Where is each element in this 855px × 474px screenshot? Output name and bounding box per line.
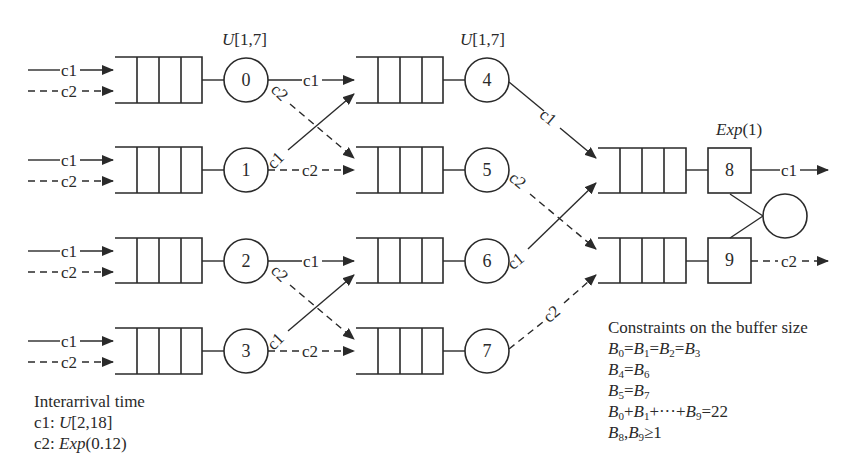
label-c1: c1 [61,61,77,80]
svg-text:9: 9 [725,250,734,270]
label-c1: c1 [61,242,77,261]
stage1-inputs: c1 c2 c1 c2 c1 c2 c1 c2 [28,61,113,372]
svg-text:c1: c1 [303,71,319,90]
server-0: 0 [224,58,268,102]
server-1: 1 [224,148,268,192]
constraints-title: Constraints on the buffer size [608,317,808,338]
svg-text:c1: c1 [781,161,797,180]
constraint-line: B0=B1=B2=B3B0=B1=B2=B3 [608,338,808,359]
server-8: 8 [708,148,751,193]
label-c2: c2 [61,82,77,101]
label-c1: c1 [61,332,77,351]
server-4: 4 [465,58,509,102]
label-c2: c2 [61,172,77,191]
queue-buffer-5 [356,147,443,193]
server-6: 6 [465,239,509,283]
stage2-queues [356,57,443,374]
routing-stage1-to-stage2: c1 c2 c1 c2 c1 c2 c1 c2 [263,71,354,361]
queue-buffer-2 [115,238,202,283]
svg-text:0: 0 [242,70,251,90]
service-dist-stage2: U[1,7] [460,30,505,49]
interarrival-c1: c1: U[2,18] [34,412,145,433]
svg-text:c2: c2 [302,342,318,361]
queue-buffer-1 [115,147,202,193]
queue-buffer-7 [356,328,443,374]
server-7: 7 [465,329,509,373]
server-3: 3 [224,329,268,373]
svg-text:c2: c2 [267,261,292,286]
svg-text:8: 8 [725,160,734,180]
svg-text:5: 5 [483,160,492,180]
interarrival-title: Interarrival time [34,391,145,412]
stage3-queues [598,148,686,283]
shared-resource-circle [730,194,807,238]
svg-text:7: 7 [483,341,492,361]
server-5: 5 [465,148,509,192]
constraint-line: B8,B9≥1B8,B9≥1 [608,422,808,443]
svg-text:4: 4 [483,70,492,90]
buffer-constraints: Constraints on the buffer size B0=B1=B2=… [608,317,808,443]
queue-buffer-9 [598,238,686,283]
queue-buffer-3 [115,328,202,374]
service-dist-stage3: Exp(1) [715,120,762,139]
constraint-line: B5=B7B5=B7 [608,380,808,401]
svg-text:6: 6 [483,251,492,271]
svg-text:c2: c2 [267,80,292,105]
queue-buffer-0 [115,57,202,103]
constraint-line: B4=B6B4=B6 [608,359,808,380]
label-c2: c2 [61,263,77,282]
stage1-queues [115,57,202,374]
constraint-line: B0+B1+···+B9=22B0+B1+···+B9=22 [608,401,808,422]
queue-buffer-6 [356,238,443,283]
server-9: 9 [708,238,751,283]
svg-text:c2: c2 [781,252,797,271]
interarrival-c2: c2: Exp(0.12) [34,433,145,454]
svg-text:1: 1 [242,160,251,180]
routing-stage2-to-stage3: c1 c2 c1 c2 [503,82,596,349]
label-c1: c1 [61,151,77,170]
server-2: 2 [224,239,268,283]
service-dist-stage1: U[1,7] [222,30,267,49]
queue-buffer-4 [356,57,443,103]
svg-text:2: 2 [242,251,251,271]
svg-text:3: 3 [242,341,251,361]
svg-text:c1: c1 [303,252,319,271]
interarrival-legend: Interarrival time c1: U[2,18] c2: Exp(0.… [34,391,145,454]
svg-text:c2: c2 [302,161,318,180]
label-c2: c2 [61,353,77,372]
queue-buffer-8 [598,148,686,193]
svg-text:c1: c1 [536,105,561,130]
